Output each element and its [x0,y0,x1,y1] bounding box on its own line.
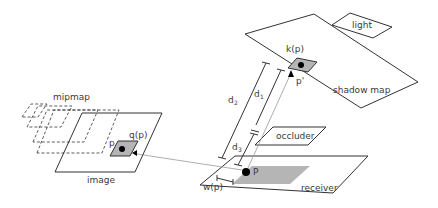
p-image-label: p [109,138,115,148]
receiver-label: receiver [301,183,338,193]
image-label: image [87,175,115,185]
shadow-map-plane: k(p) p' shadow map [245,14,418,108]
arrow-head-icon [288,70,294,77]
occluder-label: occluder [276,131,315,141]
receiver-point [242,168,250,176]
receiver-plane: P receiver w(p) [200,156,368,193]
svg-text:1: 1 [260,93,264,100]
svg-text:3: 3 [238,146,242,153]
P-label: P [253,167,259,177]
d2-label: d [228,95,234,105]
q-p-label: q(p) [129,130,147,140]
image-dot [119,146,125,152]
view-ray [137,154,242,170]
w-p-label: w(p) [203,182,223,192]
light-plane: light [332,13,392,38]
k-p-label: k(p) [286,44,304,54]
shadow-mapping-diagram: light k(p) p' shadow map occluder P rece… [0,0,438,208]
image-plane: q(p) p image [55,113,162,185]
p-prime-label: p' [296,76,304,86]
texel-dot [298,62,304,68]
distance-lines: d 2 d 1 d 3 [218,62,294,168]
mipmap-label: mipmap [53,92,90,102]
d3-label: d [232,142,238,152]
svg-text:2: 2 [234,99,238,106]
mipmap-stack: mipmap [22,92,119,153]
d1-label: d [254,89,260,99]
shadow-map-label: shadow map [333,85,391,95]
light-label: light [352,20,372,30]
